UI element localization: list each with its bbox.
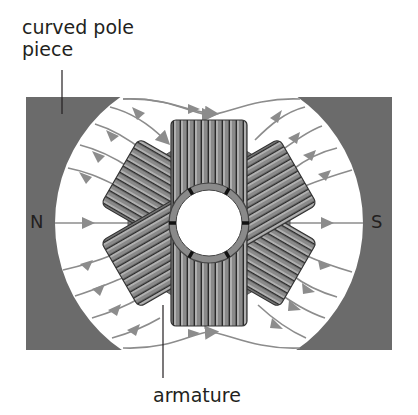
armature-label: armature [153,384,241,406]
south-pole-label: S [371,211,382,232]
shaft-hole [176,190,242,256]
armature [101,120,317,326]
motor-diagram [0,0,418,415]
north-pole-label: N [30,211,43,232]
